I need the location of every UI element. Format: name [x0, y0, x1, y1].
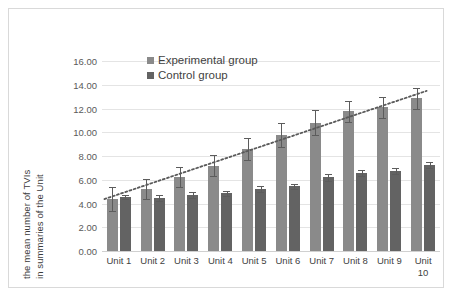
bar-ctl[interactable]	[255, 189, 266, 251]
error-bar	[180, 167, 181, 187]
legend-label-control: Control group	[158, 68, 228, 82]
bar-exp[interactable]	[411, 98, 422, 251]
bar-group	[271, 61, 305, 251]
x-axis-tick-label: Unit 2	[136, 255, 170, 267]
error-bar-cap	[210, 176, 217, 177]
error-bar-cap	[413, 109, 420, 110]
bar-group	[372, 61, 406, 251]
error-bar-cap	[426, 162, 433, 163]
legend-item-experimental: Experimental group	[147, 53, 258, 67]
error-bar	[383, 97, 384, 118]
bar-ctl[interactable]	[390, 171, 401, 251]
error-bar-cap	[278, 123, 285, 124]
error-bar-cap	[210, 155, 217, 156]
bar-exp[interactable]	[174, 177, 185, 251]
x-axis-tick-label: Unit 9	[372, 255, 406, 267]
error-bar-cap	[312, 135, 319, 136]
y-axis-tick-label: 2.00	[57, 222, 97, 233]
error-bar	[417, 88, 418, 109]
error-bar-cap	[176, 167, 183, 168]
error-bar-cap	[392, 168, 399, 169]
error-bar	[328, 174, 329, 181]
error-bar-cap	[312, 110, 319, 111]
plot-area	[102, 61, 440, 251]
y-axis-tick-label: 14.00	[57, 79, 97, 90]
bar-exp[interactable]	[310, 123, 321, 251]
bar-ctl[interactable]	[154, 198, 165, 251]
error-bar-cap	[345, 122, 352, 123]
bar-ctl[interactable]	[221, 193, 232, 251]
x-axis-tick-label: Unit 5	[237, 255, 271, 267]
bar-ctl[interactable]	[120, 197, 131, 251]
bar-group	[203, 61, 237, 251]
error-bar	[315, 110, 316, 135]
bar-group	[305, 61, 339, 251]
error-bar	[248, 138, 249, 161]
error-bar-cap	[257, 186, 264, 187]
bar-exp[interactable]	[343, 111, 354, 251]
error-bar-cap	[379, 97, 386, 98]
x-axis-tick-label: Unit 3	[170, 255, 204, 267]
bar-group	[102, 61, 136, 251]
y-axis-tick-label: 4.00	[57, 198, 97, 209]
error-bar	[112, 187, 113, 211]
x-axis-tick-label: Unit10	[406, 255, 440, 279]
bar-ctl[interactable]	[356, 173, 367, 251]
error-bar-cap	[122, 199, 129, 200]
error-bar-cap	[223, 196, 230, 197]
y-axis-tick-label: 16.00	[57, 56, 97, 67]
bar-ctl[interactable]	[323, 177, 334, 251]
x-axis-tick-label: Unit 4	[203, 255, 237, 267]
gridline	[102, 251, 440, 252]
error-bar-cap	[257, 192, 264, 193]
error-bar-cap	[109, 211, 116, 212]
error-bar-cap	[156, 201, 163, 202]
y-axis-tick-label: 12.00	[57, 103, 97, 114]
x-axis-tick-label: Unit 1	[102, 255, 136, 267]
error-bar-cap	[143, 199, 150, 200]
bar-exp[interactable]	[208, 166, 219, 252]
error-bar	[214, 155, 215, 175]
error-bar-cap	[223, 191, 230, 192]
y-axis-title-line-1: the mean number of TVIs	[21, 170, 32, 279]
y-axis-title: the mean number of TVIs in summaries of …	[19, 49, 55, 279]
error-bar-cap	[189, 192, 196, 193]
chart-frame: the mean number of TVIs in summaries of …	[8, 8, 444, 288]
error-bar	[146, 179, 147, 199]
bar-exp[interactable]	[242, 149, 253, 251]
chart-legend: Experimental group Control group	[147, 53, 258, 82]
bar-group	[136, 61, 170, 251]
chart-screenshot: the mean number of TVIs in summaries of …	[0, 0, 454, 296]
error-bar-cap	[156, 195, 163, 196]
error-bar-cap	[325, 174, 332, 175]
y-axis-tick-label: 10.00	[57, 127, 97, 138]
bar-exp[interactable]	[276, 135, 287, 251]
bar-group	[237, 61, 271, 251]
x-axis-tick-label: Unit 7	[305, 255, 339, 267]
legend-label-experimental: Experimental group	[158, 53, 258, 67]
legend-swatch-icon-control	[147, 72, 154, 79]
error-bar-cap	[122, 195, 129, 196]
error-bar-cap	[278, 147, 285, 148]
bar-ctl[interactable]	[424, 165, 435, 251]
error-bar-cap	[189, 198, 196, 199]
error-bar-cap	[345, 101, 352, 102]
error-bar-cap	[244, 138, 251, 139]
bar-group	[339, 61, 373, 251]
x-axis-tick-label: Unit 8	[339, 255, 373, 267]
bar-exp[interactable]	[377, 107, 388, 251]
error-bar-cap	[379, 118, 386, 119]
y-axis-tick-label: 0.00	[57, 246, 97, 257]
bar-ctl[interactable]	[289, 186, 300, 251]
error-bar-cap	[325, 181, 332, 182]
error-bar-cap	[291, 184, 298, 185]
x-axis-tick-labels: Unit 1Unit 2Unit 3Unit 4Unit 5Unit 6Unit…	[102, 255, 440, 291]
bar-ctl[interactable]	[187, 195, 198, 251]
bar-group	[170, 61, 204, 251]
x-axis-tick-label: Unit 6	[271, 255, 305, 267]
y-axis-title-line-2: in summaries of the Unit	[34, 174, 45, 279]
error-bar-cap	[392, 174, 399, 175]
error-bar-cap	[426, 168, 433, 169]
y-axis-tick-labels: 0.002.004.006.008.0010.0012.0014.0016.00	[55, 61, 97, 251]
legend-swatch-icon-experimental	[147, 57, 154, 64]
